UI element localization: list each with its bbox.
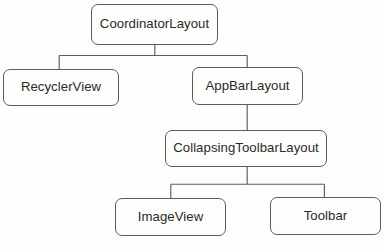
node-coordinatorlayout: CoordinatorLayout (91, 4, 218, 45)
node-label: CoordinatorLayout (100, 17, 209, 31)
view-hierarchy-diagram: CoordinatorLayout RecyclerView AppBarLay… (0, 0, 384, 250)
node-label: RecyclerView (21, 80, 101, 94)
node-label: AppBarLayout (205, 79, 289, 93)
caption-strip (0, 241, 384, 250)
node-recyclerview: RecyclerView (3, 69, 119, 106)
node-label: CollapsingToolbarLayout (173, 141, 319, 155)
node-imageview: ImageView (115, 198, 226, 236)
node-appbarlayout: AppBarLayout (192, 67, 303, 105)
node-label: ImageView (138, 210, 203, 224)
node-collapsingtoolbarlayout: CollapsingToolbarLayout (165, 130, 327, 167)
node-label: Toolbar (304, 209, 348, 223)
node-toolbar: Toolbar (270, 197, 381, 235)
